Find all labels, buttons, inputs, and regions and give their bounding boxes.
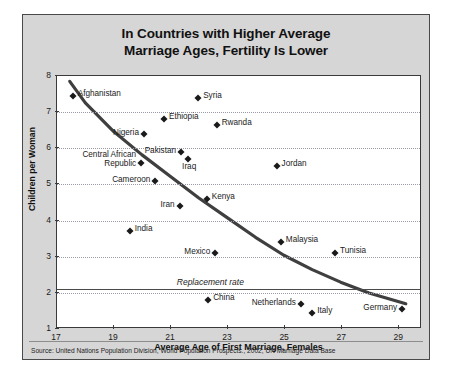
x-axis-tick-mark <box>56 325 57 329</box>
data-point-label: Netherlands <box>252 298 296 308</box>
plot-area: Replacement rate AfghanistanSyriaEthiopi… <box>56 75 421 328</box>
y-axis-tick-mark <box>55 75 59 76</box>
y-axis-tick-label: 6 <box>46 142 54 152</box>
x-axis-tick-mark <box>227 325 228 329</box>
y-axis-label: Children per Woman <box>27 127 37 211</box>
chart-title: In Countries with Higher Average Marriag… <box>23 25 429 59</box>
data-point-label: Kenya <box>212 192 235 202</box>
source-note: Source: United Nations Population Divisi… <box>31 347 335 354</box>
y-axis-tick-mark <box>55 183 59 184</box>
data-point-label: Syria <box>203 91 222 101</box>
data-point-label: Germany <box>363 303 397 313</box>
data-point-label: China <box>213 293 234 303</box>
data-point-label: Italy <box>317 306 332 316</box>
y-axis-tick-label: 7 <box>46 106 54 116</box>
data-point-label: Jordan <box>282 160 307 170</box>
data-point-label: Mexico <box>184 247 210 257</box>
x-axis-tick-label: 21 <box>165 332 174 342</box>
x-axis-tick-label: 19 <box>108 332 117 342</box>
x-axis-tick-label: 25 <box>279 332 288 342</box>
x-axis-tick-mark <box>170 325 171 329</box>
x-axis-tick-label: 27 <box>336 332 345 342</box>
replacement-rate-label: Replacement rate <box>177 277 244 287</box>
y-axis-tick-mark <box>55 256 59 257</box>
data-point-label: Iran <box>161 200 175 210</box>
gridline-y-3 <box>57 257 420 259</box>
gridline-y-4 <box>57 221 420 223</box>
y-axis-tick-mark <box>55 292 59 293</box>
data-point-label: Malaysia <box>286 236 318 246</box>
x-axis-tick-mark <box>398 325 399 329</box>
y-axis-tick-mark <box>55 147 59 148</box>
y-axis-tick-label: 5 <box>46 178 54 188</box>
data-point-label: India <box>135 225 153 235</box>
data-point-label: Tunisia <box>340 246 366 256</box>
y-axis-tick-mark <box>55 111 59 112</box>
x-axis-tick-mark <box>341 325 342 329</box>
x-axis-tick-mark <box>284 325 285 329</box>
x-axis-tick-label: 17 <box>51 332 60 342</box>
y-axis-tick-label: 4 <box>46 215 54 225</box>
data-point-label: Cameroon <box>112 175 150 185</box>
data-point-label: Ethiopia <box>169 113 199 123</box>
y-axis-tick-label: 8 <box>46 70 54 80</box>
data-point-label: Rwanda <box>222 118 252 128</box>
gridline-y-5 <box>57 184 420 186</box>
data-point-label: Nigeria <box>113 128 139 138</box>
x-axis-tick-label: 23 <box>222 332 231 342</box>
gridline-y-2 <box>57 293 420 295</box>
chart-figure-panel: In Countries with Higher Average Marriag… <box>22 14 430 360</box>
x-axis-tick-label: 29 <box>393 332 402 342</box>
data-point-label: Central AfricanRepublic <box>82 149 136 168</box>
data-point-label: Afghanistan <box>78 89 121 99</box>
y-axis-tick-mark <box>55 220 59 221</box>
data-point-label: Iraq <box>182 162 196 172</box>
gridline-y-7 <box>57 112 420 114</box>
x-axis-tick-mark <box>113 325 114 329</box>
y-axis-tick-label: 2 <box>46 287 54 297</box>
replacement-rate-line <box>57 289 420 290</box>
data-point-label: Pakistan <box>145 146 176 156</box>
chart-title-line-2: Marriage Ages, Fertility Is Lower <box>23 42 429 59</box>
y-axis-tick-label: 3 <box>46 251 54 261</box>
chart-title-line-1: In Countries with Higher Average <box>23 25 429 42</box>
